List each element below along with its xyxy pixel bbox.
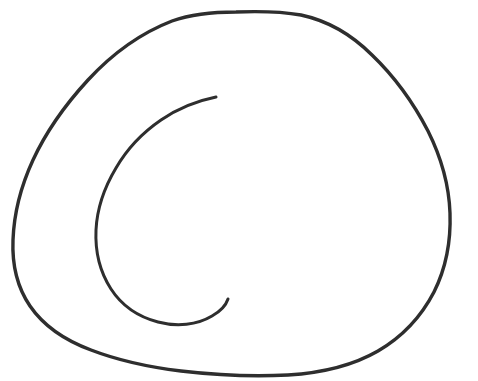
sketch-canvas <box>0 0 478 381</box>
sketch-drawing <box>0 0 478 381</box>
canvas-background <box>0 0 478 381</box>
